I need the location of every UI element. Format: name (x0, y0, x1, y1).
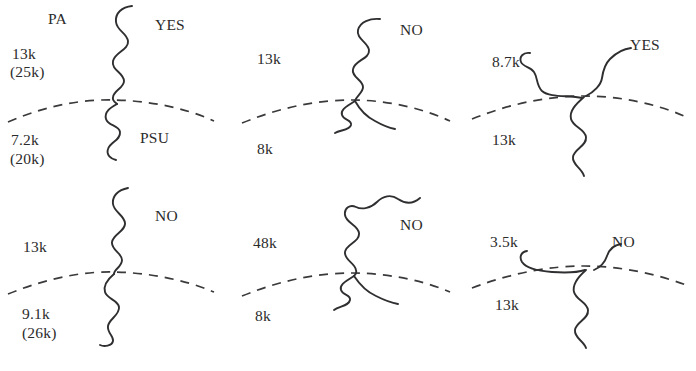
mw-label-bottom: 8k (255, 308, 271, 324)
panel-bottom-right: NO 3.5k 13k (464, 186, 696, 371)
panel-top-left: PA YES 13k (25k) PSU 7.2k (20k) (0, 0, 232, 185)
mw-label-bottom-alt: (20k) (10, 151, 45, 167)
mw-label-top: 8.7k (492, 54, 520, 70)
mw-label-bottom: 9.1k (22, 306, 50, 322)
mw-label-top: 13k (23, 239, 47, 255)
panel-top-middle: NO 13k 8k (232, 0, 464, 185)
mw-label-top: 48k (253, 235, 277, 251)
panel-bottom-middle-drawing (232, 186, 464, 371)
mw-label-top: 3.5k (490, 234, 518, 250)
polymer-label-bottom: PSU (140, 130, 169, 146)
chain-above-interface-arm-2 (586, 48, 631, 96)
compatibility-answer: NO (155, 208, 178, 224)
mw-label-top-alt: (25k) (10, 64, 45, 80)
mw-label-bottom: 13k (495, 297, 519, 313)
compatibility-answer: NO (612, 234, 635, 250)
chain-above-interface-arm-1 (521, 251, 585, 272)
compatibility-answer: NO (400, 217, 423, 233)
chain-below-interface-arm-2 (355, 101, 395, 129)
interface-dashed-curve (8, 100, 214, 122)
chain-above-interface (113, 6, 132, 104)
mw-label-top: 13k (12, 46, 36, 62)
chain-above-interface-arm-1 (520, 53, 582, 98)
panel-top-right: YES 8.7k 13k (464, 0, 696, 185)
interface-dashed-curve (8, 272, 214, 294)
panel-bottom-middle: NO 48k 8k (232, 186, 464, 371)
polymer-label-top: PA (48, 11, 67, 27)
chain-above-interface (112, 188, 128, 274)
chain-above-interface (353, 19, 380, 101)
compatibility-answer: YES (155, 17, 185, 33)
mw-label-bottom: 7.2k (11, 132, 39, 148)
chain-below-interface (571, 97, 586, 176)
mw-label-bottom-alt: (26k) (22, 325, 57, 341)
chain-above-interface (345, 196, 420, 276)
chain-below-interface-arm-2 (354, 276, 398, 304)
chain-below-interface (100, 274, 119, 346)
panel-top-right-drawing (464, 0, 696, 185)
panel-bottom-left: NO 13k 9.1k (26k) (0, 186, 232, 371)
chain-below-interface-arm-1 (335, 101, 355, 133)
compatibility-answer: YES (630, 37, 660, 53)
chain-below-interface (106, 104, 120, 160)
interface-dashed-curve (472, 96, 684, 119)
interface-dashed-curve (242, 273, 450, 296)
compatibility-answer: NO (400, 22, 423, 38)
mw-label-top: 13k (257, 51, 281, 67)
panel-top-middle-drawing (232, 0, 464, 185)
mw-label-bottom: 8k (257, 141, 273, 157)
chain-below-interface-arm-1 (334, 276, 354, 310)
copolymer-compatibilizer-figure: PA YES 13k (25k) PSU 7.2k (20k) NO 13k 8… (0, 0, 696, 371)
mw-label-bottom: 13k (492, 132, 516, 148)
chain-below-interface (574, 270, 588, 348)
panel-bottom-right-drawing (464, 186, 696, 371)
panel-bottom-left-drawing (0, 186, 232, 371)
